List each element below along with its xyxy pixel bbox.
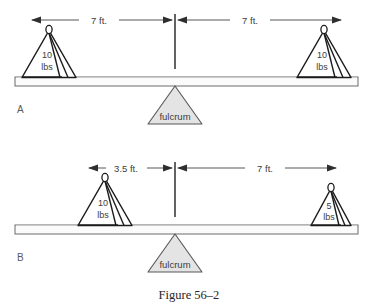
weight-b-right-unit: lbs xyxy=(323,212,335,222)
weight-b-right-hook-ring xyxy=(328,183,334,191)
fulcrum-a: fulcrum xyxy=(148,86,202,124)
dimension-a-left-arrowhead xyxy=(31,16,41,23)
fulcrum-b: fulcrum xyxy=(148,234,202,272)
fulcrum-b-label: fulcrum xyxy=(159,259,190,270)
dimension-a-left-label: 7 ft. xyxy=(91,15,107,26)
weight-b-left-value: 10 xyxy=(98,198,108,208)
panel-b: 3.5 ft. 7 ft. 10 lb xyxy=(15,162,358,272)
dimension-a-left-arrowhead-inner xyxy=(163,16,173,23)
beam-b-body xyxy=(15,225,358,234)
dimension-b-right-arrowhead-inner xyxy=(177,164,187,171)
weight-b-left-hook-ring xyxy=(102,173,108,181)
dimension-b-left: 3.5 ft. xyxy=(88,163,173,174)
dimension-b-left-label: 3.5 ft. xyxy=(114,163,138,174)
fulcrum-a-label: fulcrum xyxy=(159,111,190,122)
weight-b-left-unit: lbs xyxy=(97,210,109,220)
dimension-a-left: 7 ft. xyxy=(31,15,173,26)
dimension-a-right: 7 ft. xyxy=(177,15,342,26)
beam-b xyxy=(15,225,358,234)
weight-a-left-hook-ring xyxy=(46,25,52,33)
weight-a-left-unit: lbs xyxy=(41,62,53,72)
dimension-b-right-arrowhead xyxy=(327,164,337,171)
weight-b-right: 5 lbs xyxy=(311,183,351,225)
weight-a-right-unit: lbs xyxy=(316,62,328,72)
dimension-a-right-arrowhead-inner xyxy=(177,16,187,23)
lever-figure: 7 ft. 7 ft. 10 lbs xyxy=(0,0,375,308)
figure-root: 7 ft. 7 ft. 10 lbs xyxy=(0,0,375,308)
weight-a-right: 10 lbs xyxy=(297,25,351,77)
dimension-b-right-label: 7 ft. xyxy=(257,163,273,174)
panel-label-b: B xyxy=(17,252,24,263)
weight-a-left: 10 lbs xyxy=(22,25,76,77)
dimension-a-right-arrowhead xyxy=(332,16,342,23)
weight-a-right-value: 10 xyxy=(317,50,327,60)
dimension-row-a: 7 ft. 7 ft. xyxy=(31,14,342,69)
beam-a xyxy=(15,77,358,86)
panel-a: 7 ft. 7 ft. 10 lbs xyxy=(15,14,358,124)
dimension-b-right: 7 ft. xyxy=(177,163,337,174)
weight-b-left: 10 lbs xyxy=(78,173,132,225)
weight-a-right-hook-ring xyxy=(321,25,327,33)
beam-a-body xyxy=(15,77,358,86)
dimension-a-right-label: 7 ft. xyxy=(242,15,258,26)
dimension-b-left-arrowhead-inner xyxy=(163,164,173,171)
panel-label-a: A xyxy=(17,104,24,115)
weight-a-left-value: 10 xyxy=(42,50,52,60)
dimension-row-b: 3.5 ft. 7 ft. xyxy=(88,162,337,217)
dimension-b-left-arrowhead xyxy=(88,164,98,171)
weight-b-right-value: 5 xyxy=(326,201,331,211)
figure-caption: Figure 56–2 xyxy=(159,288,220,302)
